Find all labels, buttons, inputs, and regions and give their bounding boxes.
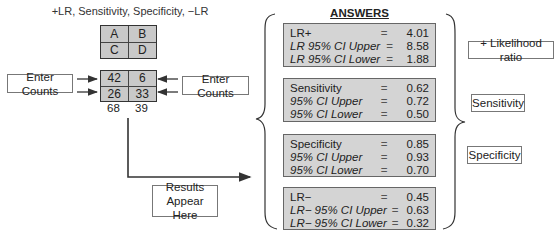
answer-label: LR 95% CI Upper [290,40,380,53]
answer-label: Specificity [290,138,373,151]
answer-value: 8.58 [399,40,429,53]
answer-box-sensitivity: Sensitivity = 0.62 95% CI Upper = 0.72 9… [283,78,436,122]
answer-row: Sensitivity = 0.62 [290,82,429,95]
answer-row: LR+ = 4.01 [290,27,429,40]
side-label-specificity: Specificity [467,146,522,164]
equals-sign: = [387,217,404,230]
equals-sign: = [380,53,399,66]
answer-label: Sensitivity [290,82,373,95]
answer-value: 0.45 [395,191,429,204]
connectors-layer [0,0,558,231]
equals-sign: = [373,95,395,108]
answer-label: 95% CI Lower [290,108,373,121]
results-arrow [128,118,250,177]
answer-value: 4.01 [395,27,429,40]
column-total-1: 68 [100,102,127,114]
answer-row: 95% CI Upper = 0.93 [290,151,429,164]
answer-value: 0.50 [395,108,429,121]
answer-label: 95% CI Upper [290,151,373,164]
grid-cell-b: B [129,26,157,43]
equals-sign: = [387,204,404,217]
answer-row: 95% CI Lower = 0.70 [290,164,429,177]
answer-label: 95% CI Lower [290,164,373,177]
answer-row: LR− 95% CI Upper = 0.63 [290,204,429,217]
equals-sign: = [373,82,395,95]
answer-row: LR− 95% CI Lower = 0.32 [290,217,429,230]
answer-value: 0.70 [395,164,429,177]
results-label-line1: Results [166,180,204,194]
left-brace [256,14,277,229]
answer-row: Specificity = 0.85 [290,138,429,151]
answer-label: LR 95% CI Lower [290,53,380,66]
grid-cell-c: C [101,43,129,59]
answer-value: 0.62 [395,82,429,95]
results-label-line2: Appear Here [153,194,217,222]
answer-box-negative-lr: LR− = 0.45 LR− 95% CI Upper = 0.63 LR− 9… [283,187,436,230]
answer-label: LR+ [290,27,373,40]
answer-label: 95% CI Upper [290,95,373,108]
diagram-subtitle: +LR, Sensitivity, Specificity, −LR [0,5,260,17]
grid-cell-d: D [129,43,157,59]
side-label-sensitivity: Sensitivity [471,94,525,112]
answer-value: 0.72 [395,95,429,108]
answer-value: 0.93 [395,151,429,164]
answer-box-specificity: Specificity = 0.85 95% CI Upper = 0.93 9… [283,134,436,177]
counts-2x2-grid: 42 6 26 33 [100,70,157,102]
enter-counts-label-left: Enter Counts [7,74,73,93]
count-cell-b[interactable]: 6 [129,71,157,87]
side-label-positive-likelihood-ratio: + Likelihood ratio [468,41,554,59]
equals-sign: = [373,27,395,40]
equals-sign: = [380,40,399,53]
answer-row: 95% CI Upper = 0.72 [290,95,429,108]
answer-row: LR 95% CI Upper = 8.58 [290,40,429,53]
answer-label: LR− 95% CI Lower [290,217,387,230]
equals-sign: = [373,164,395,177]
right-brace [443,14,465,229]
grid-cell-a: A [101,26,129,43]
results-appear-here-label: Results Appear Here [152,185,218,217]
count-cell-c[interactable]: 26 [101,87,129,102]
equals-sign: = [373,108,395,121]
count-cell-d[interactable]: 33 [129,87,157,102]
count-cell-a[interactable]: 42 [101,71,129,87]
answer-value: 0.32 [403,217,429,230]
answers-title: ANSWERS [283,7,436,19]
answer-row: LR 95% CI Lower = 1.88 [290,53,429,66]
answer-row: LR− = 0.45 [290,191,429,204]
answer-label: LR− [290,191,373,204]
answer-row: 95% CI Lower = 0.50 [290,108,429,121]
answer-label: LR− 95% CI Upper [290,204,387,217]
column-total-2: 39 [128,102,155,114]
equals-sign: = [373,151,395,164]
enter-counts-label-right: Enter Counts [182,76,249,95]
equals-sign: = [373,191,395,204]
answer-box-positive-lr: LR+ = 4.01 LR 95% CI Upper = 8.58 LR 95%… [283,23,436,67]
equals-sign: = [373,138,395,151]
answer-value: 0.85 [395,138,429,151]
template-2x2-grid: A B C D [100,25,157,59]
answer-value: 1.88 [399,53,429,66]
answer-value: 0.63 [403,204,429,217]
